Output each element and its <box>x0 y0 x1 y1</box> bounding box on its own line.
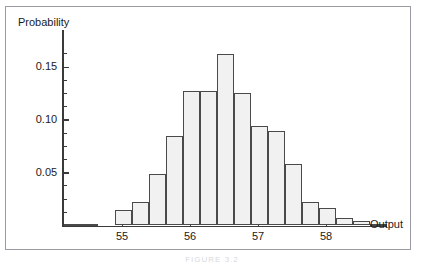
bar-9[interactable] <box>217 54 234 225</box>
bar-14[interactable] <box>302 202 319 225</box>
figure-container: 0.050.100.1555565758 Probability Output … <box>0 0 424 272</box>
y-tick-minor-5 <box>64 133 67 134</box>
histogram-plot: 0.050.100.1555565758 <box>0 0 424 272</box>
bar-10[interactable] <box>234 93 251 225</box>
x-tick-label-2: 57 <box>243 230 273 242</box>
y-axis-title: Probability <box>18 16 69 28</box>
x-axis-line <box>62 226 387 228</box>
y-axis-line <box>62 30 64 226</box>
x-tick-label-0: 55 <box>107 230 137 242</box>
bar-3[interactable] <box>115 210 132 226</box>
x-axis-title: Output <box>370 218 403 230</box>
y-tick-major-0 <box>64 172 69 174</box>
bar-15[interactable] <box>319 208 336 226</box>
y-tick-major-2 <box>64 67 69 69</box>
bar-8[interactable] <box>200 91 217 225</box>
bar-7[interactable] <box>183 91 200 225</box>
bar-0[interactable] <box>64 224 81 226</box>
x-tick-label-1: 56 <box>175 230 205 242</box>
bar-17[interactable] <box>353 221 370 225</box>
y-tick-minor-3 <box>64 159 67 160</box>
bar-13[interactable] <box>285 164 302 225</box>
y-tick-minor-8 <box>64 80 67 81</box>
bar-4[interactable] <box>132 202 149 225</box>
bar-12[interactable] <box>268 131 285 225</box>
y-tick-label-0: 0.05 <box>23 166 57 178</box>
y-tick-minor-6 <box>64 106 67 107</box>
bar-11[interactable] <box>251 126 268 225</box>
y-tick-minor-4 <box>64 146 67 147</box>
x-tick-label-3: 58 <box>311 230 341 242</box>
bar-6[interactable] <box>166 136 183 226</box>
y-tick-minor-9 <box>64 53 67 54</box>
y-tick-label-2: 0.15 <box>23 60 57 72</box>
y-tick-minor-2 <box>64 185 67 186</box>
bar-1[interactable] <box>81 224 98 226</box>
y-tick-minor-7 <box>64 93 67 94</box>
y-tick-major-1 <box>64 119 69 121</box>
y-tick-minor-1 <box>64 199 67 200</box>
bar-16[interactable] <box>336 218 353 225</box>
figure-caption: FIGURE 3.2 <box>0 255 424 264</box>
bar-5[interactable] <box>149 174 166 226</box>
y-tick-label-1: 0.10 <box>23 113 57 125</box>
y-tick-minor-0 <box>64 212 67 213</box>
